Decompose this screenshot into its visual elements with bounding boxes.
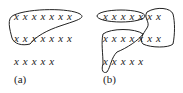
panel-b: x x x x x x x x x x x x x x x x x x x (b… xyxy=(91,0,183,93)
x-row-1: x x x x x x x xyxy=(103,10,161,22)
x-row-2: x x x x x x x xyxy=(14,32,72,44)
x-row-2: x x x x x x x xyxy=(103,32,161,44)
panel-a: x x x x x x x x x x x x x x x x x x x (a… xyxy=(0,0,92,93)
x-row-3: x x x x x xyxy=(14,55,55,67)
x-row-3: x x x x x xyxy=(103,55,144,67)
panel-label-a: (a) xyxy=(14,73,26,85)
panel-label-b: (b) xyxy=(103,73,116,85)
x-row-1: x x x x x x x xyxy=(14,10,72,22)
